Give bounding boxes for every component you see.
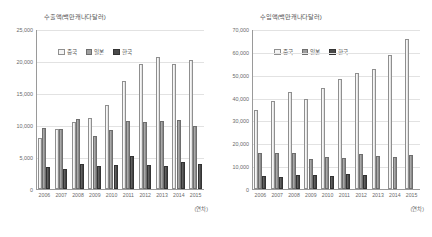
x-axis-tick-label: 2006 — [255, 192, 267, 198]
x-axis-tick-label: 2009 — [305, 192, 317, 198]
bar-일본[interactable] — [393, 157, 397, 189]
y-axis-tick-label: 25,000 — [17, 27, 34, 33]
bar-한국[interactable] — [147, 165, 151, 189]
bar-group — [55, 30, 68, 189]
y-axis-tick-label: 0 — [246, 187, 249, 193]
y-axis-tick-label: 30,000 — [233, 118, 250, 124]
x-axis-tick-label: 2008 — [72, 192, 84, 198]
y-axis-tick-label: 15,000 — [17, 91, 34, 97]
export-chart-panel: 수출액(백만캐나다달러) 중국 일본 한국 05,00010,00015,000… — [0, 0, 216, 237]
import-plot-inner: 010,00020,00030,00040,00050,00060,00070,… — [252, 30, 420, 190]
bar-group — [304, 30, 317, 189]
bar-한국[interactable] — [363, 175, 367, 189]
figure-container: 수출액(백만캐나다달러) 중국 일본 한국 05,00010,00015,000… — [0, 0, 432, 237]
bar-한국[interactable] — [164, 166, 168, 189]
y-axis-tick-label: 5,000 — [20, 155, 34, 161]
bar-한국[interactable] — [130, 156, 134, 189]
x-axis-tick-label: 2012 — [355, 192, 367, 198]
bar-group — [271, 30, 284, 189]
bar-일본[interactable] — [409, 155, 413, 189]
x-axis-tick-label: 2011 — [339, 192, 350, 198]
bar-한국[interactable] — [97, 166, 101, 189]
bar-한국[interactable] — [313, 175, 317, 189]
bar-한국[interactable] — [330, 176, 334, 189]
y-axis-tick-label: 10,000 — [233, 164, 250, 170]
x-axis-tick-label: 2010 — [322, 192, 334, 198]
y-axis-tick-label: 60,000 — [233, 50, 250, 56]
bar-한국[interactable] — [114, 165, 118, 189]
x-axis-tick-label: 2010 — [106, 192, 118, 198]
bar-group — [156, 30, 169, 189]
bar-group — [355, 30, 368, 189]
export-plot-inner: 05,00010,00015,00020,00025,0002006200720… — [36, 30, 204, 190]
x-axis-tick-label: 2015 — [190, 192, 202, 198]
bar-group — [254, 30, 267, 189]
x-axis-tick-label: 2008 — [288, 192, 300, 198]
import-chart-title: 수입액(백만캐나다달러) — [260, 12, 322, 21]
bar-한국[interactable] — [198, 164, 202, 189]
y-axis-tick-label: 20,000 — [233, 141, 250, 147]
bar-group — [38, 30, 51, 189]
bar-한국[interactable] — [46, 167, 50, 189]
bar-group — [338, 30, 351, 189]
bar-group — [388, 30, 401, 189]
bar-group — [321, 30, 334, 189]
import-plot-area: 010,00020,00030,00040,00050,00060,00070,… — [252, 30, 420, 190]
y-axis-tick-label: 70,000 — [233, 27, 250, 33]
x-axis-tick-label: 2007 — [55, 192, 67, 198]
bar-group — [189, 30, 202, 189]
y-axis-tick-label: 50,000 — [233, 73, 250, 79]
bar-group — [372, 30, 385, 189]
x-axis-tick-label: 2007 — [271, 192, 283, 198]
x-axis-tick-label: 2012 — [139, 192, 151, 198]
bar-group — [139, 30, 152, 189]
import-x-axis-caption: (연차) — [410, 205, 424, 213]
x-axis-tick-label: 2013 — [372, 192, 384, 198]
bar-group — [172, 30, 185, 189]
x-axis-tick-label: 2013 — [156, 192, 168, 198]
export-chart-title: 수출액(백만캐나다달러) — [44, 12, 106, 21]
bar-한국[interactable] — [279, 177, 283, 189]
bar-group — [88, 30, 101, 189]
bar-group — [72, 30, 85, 189]
export-plot-area: 05,00010,00015,00020,00025,0002006200720… — [36, 30, 204, 190]
y-axis-tick-label: 40,000 — [233, 96, 250, 102]
x-axis-tick-label: 2011 — [123, 192, 134, 198]
bar-group — [122, 30, 135, 189]
bar-한국[interactable] — [80, 164, 84, 189]
bar-한국[interactable] — [346, 174, 350, 189]
bar-한국[interactable] — [63, 169, 67, 189]
x-axis-tick-label: 2006 — [39, 192, 51, 198]
x-axis-tick-label: 2014 — [173, 192, 185, 198]
bar-한국[interactable] — [262, 176, 266, 189]
bar-group — [288, 30, 301, 189]
y-axis-tick-label: 0 — [30, 187, 33, 193]
y-axis-tick-label: 20,000 — [17, 59, 34, 65]
bar-한국[interactable] — [296, 175, 300, 189]
import-chart-panel: 수입액(백만캐나다달러) 중국 일본 한국 010,00020,00030,00… — [216, 0, 432, 237]
x-axis-tick-label: 2015 — [406, 192, 418, 198]
export-x-axis-caption: (연차) — [194, 205, 208, 213]
x-axis-tick-label: 2014 — [389, 192, 401, 198]
bar-일본[interactable] — [376, 156, 380, 189]
y-axis-tick-label: 10,000 — [17, 123, 34, 129]
bar-한국[interactable] — [181, 162, 185, 189]
bar-group — [405, 30, 418, 189]
x-axis-tick-label: 2009 — [89, 192, 101, 198]
bar-group — [105, 30, 118, 189]
